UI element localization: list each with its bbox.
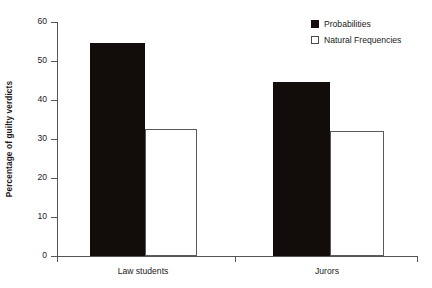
y-axis-line <box>57 22 58 257</box>
y-axis-tick-label: 60 <box>7 17 47 26</box>
y-axis-tick <box>51 100 57 101</box>
y-axis-tick-label: 10 <box>7 212 47 221</box>
y-axis-tick-label: 0 <box>7 251 47 260</box>
bar <box>145 129 197 256</box>
legend-entry-probabilities: Probabilities <box>311 17 431 31</box>
bar <box>273 82 330 256</box>
x-axis-tick <box>57 256 58 262</box>
y-axis-tick <box>51 178 57 179</box>
legend-label: Probabilities <box>324 19 371 29</box>
x-axis-tick <box>417 256 418 262</box>
y-axis-tick <box>51 61 57 62</box>
legend: Probabilities Natural Frequencies <box>311 17 431 49</box>
x-axis-tick <box>235 256 236 262</box>
x-axis-group-label: Law students <box>83 266 203 276</box>
bar <box>330 131 384 256</box>
x-axis-line <box>57 256 418 257</box>
y-axis-tick <box>51 139 57 140</box>
open-square-icon <box>311 36 319 44</box>
y-axis-tick <box>51 22 57 23</box>
bar-chart: Percentage of guilty verdicts 0102030405… <box>0 0 432 288</box>
y-axis-tick-label: 20 <box>7 173 47 182</box>
y-axis-tick-label: 50 <box>7 56 47 65</box>
legend-entry-natural-frequencies: Natural Frequencies <box>311 33 431 47</box>
filled-square-icon <box>311 20 319 28</box>
y-axis-tick-label: 30 <box>7 134 47 143</box>
y-axis-tick-label: 40 <box>7 95 47 104</box>
x-axis-group-label: Jurors <box>267 266 387 276</box>
bar <box>90 43 145 256</box>
legend-label: Natural Frequencies <box>324 35 401 45</box>
y-axis-tick <box>51 217 57 218</box>
